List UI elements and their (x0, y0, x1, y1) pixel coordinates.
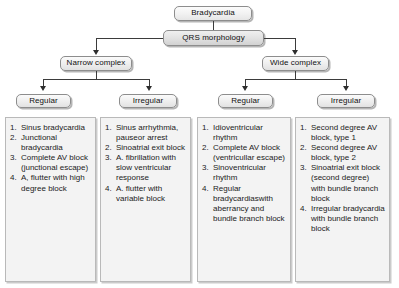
list-item: Regular bradycardiaswith aberrancy and b… (202, 184, 286, 224)
arrowhead-wide-regular (242, 86, 248, 91)
list-item: Second degree AV block, type 2 (300, 143, 385, 163)
node-narrow-irregular-label: Irregular (133, 97, 164, 105)
node-narrow-complex-label: Narrow complex (67, 59, 126, 67)
connector-root-to-decision (213, 21, 214, 30)
panel-wide-irregular: Second degree AV block, type 1 Second de… (295, 117, 390, 282)
list-item: Second degree AV block, type 1 (300, 123, 385, 143)
list-item: Junctional bradycardia (10, 133, 91, 153)
node-wide-regular[interactable]: Regular (218, 94, 273, 108)
list-item: Complete AV block (junctional escape) (10, 153, 91, 173)
node-bradycardia-label: Bradycardia (191, 9, 235, 17)
list-item: A. fibrillation with slow ventricular re… (105, 153, 186, 183)
panel-wide-regular: Idioventricular rhythm Complete AV block… (197, 117, 291, 282)
node-wide-irregular-label: Irregular (331, 97, 362, 105)
panel-narrow-irregular: Sinus arrhythmia, pauseor arrest Sinoatr… (100, 117, 191, 282)
bradycardia-flowchart: Bradycardia QRS morphology Narrow comple… (0, 0, 399, 288)
node-qrs-morphology-label: QRS morphology (182, 34, 244, 42)
node-narrow-complex[interactable]: Narrow complex (60, 56, 132, 71)
arrowhead-wide-irregular (343, 86, 349, 91)
list-item: Idioventricular rhythm (202, 123, 286, 143)
list-item: Sinoatrial exit block (second degree) wi… (300, 163, 385, 203)
arrowhead-wide-complex (292, 50, 298, 55)
wide-irregular-list: Second degree AV block, type 1 Second de… (300, 123, 385, 234)
list-item: Sinoatrial exit block (105, 143, 186, 153)
list-item: Irregular bradycardia with bundle branch… (300, 204, 385, 234)
node-narrow-regular-label: Regular (29, 97, 58, 105)
arrowhead-narrow-irregular (146, 86, 152, 91)
panel-narrow-regular: Sinus bradycardia Junctional bradycardia… (5, 117, 96, 282)
node-wide-irregular[interactable]: Irregular (317, 94, 375, 108)
list-item: Sinoventricular rhythm (202, 163, 286, 183)
list-item: A. flutter with variable block (105, 184, 186, 204)
node-bradycardia[interactable]: Bradycardia (174, 6, 252, 21)
connector-qrs-left-horizontal (96, 38, 163, 39)
wide-regular-list: Idioventricular rhythm Complete AV block… (202, 123, 286, 224)
node-wide-complex-label: Wide complex (270, 59, 321, 67)
connector-wide-split (245, 79, 346, 80)
arrowhead-narrow-complex (93, 50, 99, 55)
node-qrs-morphology[interactable]: QRS morphology (163, 30, 264, 46)
connector-narrow-split (43, 79, 149, 80)
list-item: A, flutter with high degree block (10, 173, 91, 193)
narrow-irregular-list: Sinus arrhythmia, pauseor arrest Sinoatr… (105, 123, 186, 204)
node-narrow-regular[interactable]: Regular (16, 94, 71, 108)
connector-narrow-stem (96, 71, 97, 79)
list-item: Sinus arrhythmia, pauseor arrest (105, 123, 186, 143)
narrow-regular-list: Sinus bradycardia Junctional bradycardia… (10, 123, 91, 194)
list-item: Sinus bradycardia (10, 123, 91, 133)
node-wide-complex[interactable]: Wide complex (262, 56, 329, 71)
node-narrow-irregular[interactable]: Irregular (119, 94, 177, 108)
list-item: Complete AV block (ventricullar escape) (202, 143, 286, 163)
connector-qrs-right-horizontal (264, 38, 295, 39)
node-wide-regular-label: Regular (231, 97, 260, 105)
connector-wide-stem (295, 71, 296, 79)
arrowhead-narrow-regular (40, 86, 46, 91)
